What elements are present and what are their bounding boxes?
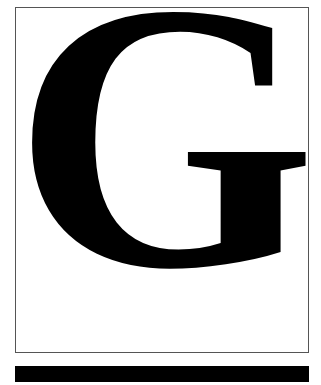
letter-frame: G xyxy=(15,7,309,353)
letter-g-glyph: G xyxy=(15,7,309,328)
underline-bar xyxy=(15,366,309,382)
